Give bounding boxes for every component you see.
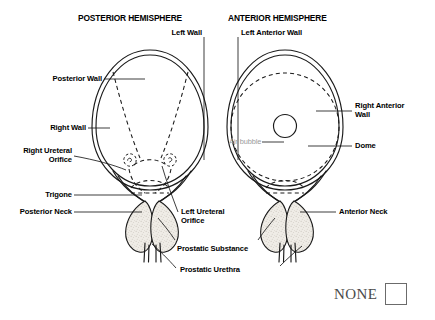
label-anterior-neck: Anterior Neck <box>339 207 417 216</box>
air-bubble-circle <box>274 115 297 138</box>
label-left-ureteral-orifice: Left Ureteral Orifice <box>181 207 245 226</box>
posterior-interior-dashed <box>113 72 188 193</box>
label-posterior-neck: Posterior Neck <box>6 207 72 216</box>
label-left-wall: Left Wall <box>146 28 202 37</box>
anterior-neck-funnel <box>248 171 326 203</box>
label-right-wall: Right Wall <box>28 123 86 132</box>
posterior-hemisphere-title: POSTERIOR HEMISPHERE <box>78 14 218 23</box>
none-checkbox[interactable] <box>385 283 407 305</box>
label-left-anterior-wall: Left Anterior Wall <box>241 28 336 37</box>
label-right-anterior-wall: Right Anterior Wall <box>355 101 429 120</box>
label-air-bubble: Air bubble <box>229 137 283 146</box>
label-right-ureteral-orifice: Right Ureteral Orifice <box>8 146 72 165</box>
none-option[interactable]: NONE <box>334 283 407 305</box>
label-posterior-wall: Posterior Wall <box>34 74 102 83</box>
posterior-neck-funnel <box>113 171 191 203</box>
label-dome: Dome <box>355 141 399 150</box>
anterior-hemisphere-title: ANTERIOR HEMISPHERE <box>228 14 373 23</box>
posterior-prostate-lobes <box>126 201 179 252</box>
label-trigone: Trigone <box>24 190 72 199</box>
bladder-hemisphere-diagram: POSTERIOR HEMISPHERE ANTERIOR HEMISPHERE… <box>0 0 435 320</box>
label-prostatic-substance: Prostatic Substance <box>177 244 287 253</box>
none-label: NONE <box>334 286 377 303</box>
anterior-bladder-outline <box>227 50 343 190</box>
label-prostatic-urethra: Prostatic Urethra <box>180 265 280 274</box>
posterior-bladder-outline <box>92 50 208 190</box>
